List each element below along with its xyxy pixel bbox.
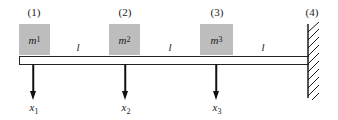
node-label-4: (4)	[306, 6, 319, 18]
beam	[19, 56, 309, 65]
mass-1-symbol: m	[29, 34, 37, 46]
displacement-label-3: x3	[213, 101, 222, 116]
node-label-2: (2)	[119, 6, 132, 18]
mass-2-symbol: m	[119, 34, 127, 46]
fixed-wall-support-icon	[300, 22, 326, 102]
mass-3: m3	[200, 24, 233, 55]
arrow-down-icon	[213, 91, 219, 100]
arrow-down-icon	[122, 91, 128, 100]
mass-2-subscript: 2	[126, 35, 130, 44]
span-label-1: l	[76, 41, 79, 53]
mass-1: m1	[19, 24, 50, 55]
displacement-2-subscript: 2	[126, 107, 130, 116]
displacement-arrow-3	[215, 64, 217, 92]
mass-2: m2	[109, 24, 140, 55]
node-label-3: (3)	[211, 6, 224, 18]
span-label-2: l	[168, 41, 171, 53]
span-label-3: l	[261, 41, 264, 53]
displacement-arrow-1	[32, 64, 34, 92]
displacement-label-1: x1	[30, 101, 39, 116]
displacement-1-subscript: 1	[34, 107, 38, 116]
mass-3-subscript: 3	[218, 35, 222, 44]
displacement-label-2: x2	[122, 101, 131, 116]
mass-1-subscript: 1	[36, 35, 40, 44]
displacement-3-subscript: 3	[217, 107, 221, 116]
arrow-down-icon	[30, 91, 36, 100]
displacement-arrow-2	[124, 64, 126, 92]
mass-3-symbol: m	[211, 34, 219, 46]
node-label-1: (1)	[28, 6, 41, 18]
